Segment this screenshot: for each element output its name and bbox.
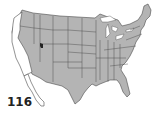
- figure-number: 116: [7, 95, 32, 109]
